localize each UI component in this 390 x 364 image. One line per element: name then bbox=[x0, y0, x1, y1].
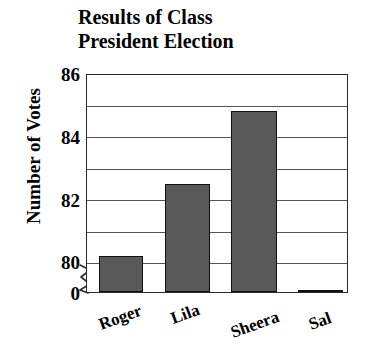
y-axis-tick-labels: 86 84 82 80 0 bbox=[38, 0, 80, 364]
bar-sal[interactable] bbox=[298, 290, 343, 292]
gridline-85 bbox=[87, 137, 347, 138]
chart-title-line-1: Results of Class bbox=[78, 6, 212, 28]
gridline-85-5 bbox=[87, 106, 347, 107]
plot-area bbox=[86, 74, 348, 293]
chart-title: Results of ClassPresident Election bbox=[78, 6, 368, 53]
bar-sheera[interactable] bbox=[231, 111, 277, 292]
x-tick-label-roger: Roger bbox=[96, 301, 145, 335]
gridline-84-5 bbox=[87, 169, 347, 170]
y-tick-label-0: 0 bbox=[40, 284, 80, 303]
y-tick-label-82: 82 bbox=[40, 191, 80, 210]
chart-title-line-2: President Election bbox=[78, 30, 234, 52]
x-tick-label-sheera: Sheera bbox=[228, 307, 282, 343]
y-tick-label-80: 80 bbox=[40, 253, 80, 272]
y-tick-label-84: 84 bbox=[40, 128, 80, 147]
gridline-83-5 bbox=[87, 232, 347, 233]
x-tick-label-sal: Sal bbox=[306, 308, 334, 335]
x-tick-label-lila: Lila bbox=[168, 300, 202, 329]
gridline-84 bbox=[87, 200, 347, 201]
y-tick-label-86: 86 bbox=[40, 65, 80, 84]
bar-chart-screenshot: Results of ClassPresident Election Numbe… bbox=[0, 0, 390, 364]
bar-lila[interactable] bbox=[165, 184, 210, 293]
bar-roger[interactable] bbox=[99, 256, 143, 292]
